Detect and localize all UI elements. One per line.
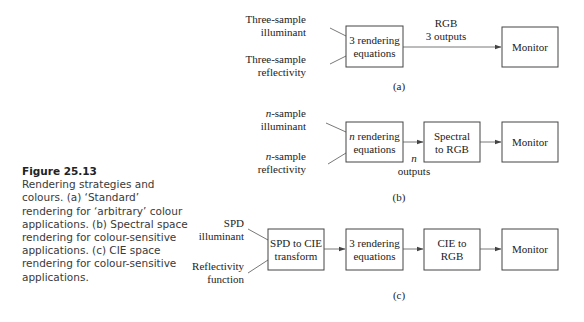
b-input-illuminant-line1: n-sample <box>266 107 306 119</box>
c-box1-line1: SPD to CIE <box>270 237 322 249</box>
diagram-c: SPD illuminant Reflectivity function SPD… <box>192 217 558 302</box>
a-input-reflectivity-line2: reflectivity <box>258 66 307 78</box>
b-monitor-label: Monitor <box>512 136 548 148</box>
b-input-reflectivity-line2: reflectivity <box>258 163 307 175</box>
c-connector-illuminant <box>248 229 268 240</box>
c-connector-reflectivity <box>248 260 268 273</box>
a-box1-line1: 3 rendering <box>349 34 400 46</box>
b-spectral-to-rgb-box <box>424 122 480 162</box>
b-rendering-equations-box <box>346 122 403 162</box>
c-box1-line2: transform <box>275 250 318 262</box>
b-box2-line1: Spectral <box>434 130 470 142</box>
c-monitor-label: Monitor <box>512 243 548 255</box>
diagram-b: n-sample illuminant n-sample reflectivit… <box>258 107 558 204</box>
c-input-reflectivity-line2: function <box>207 273 244 285</box>
c-subfigure-label: (c) <box>393 289 406 302</box>
c-box3-line1: CIE to <box>437 237 467 249</box>
a-box1-line2: equations <box>353 47 395 59</box>
b-connector-reflectivity <box>328 153 346 164</box>
a-connector-illuminant <box>330 28 346 36</box>
rendering-strategies-diagram: Three-sample illuminant Three-sample ref… <box>0 0 584 322</box>
a-edge-label-rgb: RGB <box>435 17 458 29</box>
b-input-illuminant-line2: illuminant <box>261 120 306 132</box>
a-input-illuminant-line2: illuminant <box>261 26 306 38</box>
b-subfigure-label: (b) <box>393 191 406 204</box>
c-input-illuminant-line2: illuminant <box>199 230 244 242</box>
b-edge-label-n: n <box>411 152 417 164</box>
c-box2-line2: equations <box>353 250 395 262</box>
a-edge-label-outputs: 3 outputs <box>426 30 467 42</box>
a-connector-reflectivity <box>330 56 346 64</box>
a-monitor-label: Monitor <box>512 41 548 53</box>
b-box1-line1: n rendering <box>349 130 400 142</box>
diagram-a: Three-sample illuminant Three-sample ref… <box>246 13 558 93</box>
c-input-illuminant-line1: SPD <box>224 217 244 229</box>
b-input-reflectivity-line1: n-sample <box>266 150 306 162</box>
c-box2-line1: 3 rendering <box>349 237 400 249</box>
b-connector-illuminant <box>326 123 346 132</box>
b-box2-line2: to RGB <box>435 143 469 155</box>
a-input-illuminant-line1: Three-sample <box>246 13 307 25</box>
a-subfigure-label: (a) <box>393 80 406 93</box>
b-edge-label-outputs: outputs <box>398 165 430 177</box>
c-box3-line2: RGB <box>441 250 464 262</box>
b-box1-line2: equations <box>353 143 395 155</box>
c-input-reflectivity-line1: Reflectivity <box>192 260 244 272</box>
a-input-reflectivity-line1: Three-sample <box>246 53 307 65</box>
